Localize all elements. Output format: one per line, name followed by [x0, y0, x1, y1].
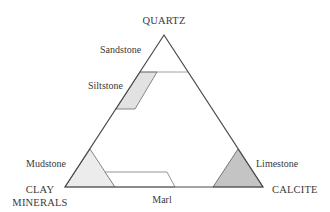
- vertex-label-calcite: CALCITE: [272, 184, 318, 195]
- region-label-sandstone: Sandstone: [100, 44, 142, 55]
- mudstone-region: [65, 149, 115, 187]
- vertex-label-quartz: QUARTZ: [142, 15, 185, 26]
- region-label-limestone: Limestone: [256, 158, 299, 169]
- marl-region: [105, 172, 175, 187]
- region-label-mudstone: Mudstone: [26, 158, 67, 169]
- region-label-siltstone: Siltstone: [88, 80, 124, 91]
- region-label-marl: Marl: [152, 194, 172, 205]
- vertex-label-clay: CLAY: [26, 184, 55, 195]
- ternary-diagram: QUARTZ CLAY MINERALS CALCITE Sandstone S…: [0, 0, 330, 212]
- vertex-label-minerals: MINERALS: [12, 197, 67, 208]
